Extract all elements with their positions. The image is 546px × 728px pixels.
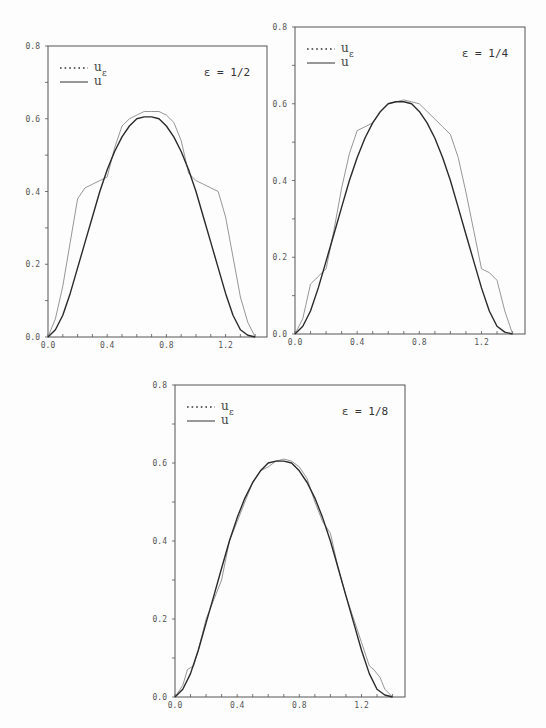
series-u xyxy=(175,461,393,697)
legend: uεu xyxy=(60,60,107,88)
x-tick-label: 0.0 xyxy=(41,341,56,350)
y-tick-label: 0.0 xyxy=(26,333,41,342)
y-tick-label: 0.2 xyxy=(153,615,168,624)
y-tick-label: 0.2 xyxy=(26,260,41,269)
y-tick-label: 0.8 xyxy=(153,381,168,390)
y-tick-label: 0.6 xyxy=(153,459,168,468)
y-tick-label: 0.4 xyxy=(153,537,168,546)
legend-subscript-epsilon: ε xyxy=(349,49,354,59)
legend-subscript-epsilon: ε xyxy=(229,407,234,417)
y-tick-label: 0.4 xyxy=(273,177,288,186)
x-tick-label: 1.2 xyxy=(474,338,489,347)
x-tick-label: 1.2 xyxy=(218,341,233,350)
legend-label-u: u xyxy=(221,413,229,427)
legend-label-u-epsilon: u xyxy=(341,41,349,55)
figure-canvas: 0.00.40.81.20.00.20.40.60.8uεuε = 1/20.0… xyxy=(0,0,546,728)
series-u-epsilon xyxy=(48,112,255,338)
chart-panel-3: 0.00.40.81.20.00.20.40.60.8uεuε = 1/8 xyxy=(153,381,405,710)
x-tick-label: 0.4 xyxy=(230,701,245,710)
chart-panel-2: 0.00.40.81.20.00.20.40.60.8uεuε = 1/4 xyxy=(273,23,525,347)
legend-label-u-epsilon: u xyxy=(221,399,229,413)
plot-frame xyxy=(48,46,267,337)
series-u-epsilon xyxy=(175,459,393,697)
x-tick-label: 0.0 xyxy=(168,701,183,710)
y-tick-label: 0.2 xyxy=(273,253,288,262)
x-tick-label: 0.8 xyxy=(292,701,307,710)
legend-label-u: u xyxy=(94,74,102,88)
x-tick-label: 0.8 xyxy=(412,338,427,347)
legend-subscript-epsilon: ε xyxy=(102,68,107,78)
y-tick-label: 0.6 xyxy=(273,100,288,109)
y-tick-label: 0.0 xyxy=(273,330,288,339)
chart-panel-1: 0.00.40.81.20.00.20.40.60.8uεuε = 1/2 xyxy=(26,42,267,350)
y-tick-label: 0.8 xyxy=(273,23,288,32)
y-tick-label: 0.0 xyxy=(153,693,168,702)
x-tick-label: 1.2 xyxy=(354,701,369,710)
epsilon-annotation: ε = 1/4 xyxy=(462,47,509,60)
series-u-epsilon xyxy=(295,100,513,334)
series-u xyxy=(48,117,255,337)
legend: uεu xyxy=(187,399,234,427)
epsilon-annotation: ε = 1/8 xyxy=(342,405,388,418)
y-tick-label: 0.6 xyxy=(26,115,41,124)
x-tick-label: 0.4 xyxy=(100,341,115,350)
x-tick-label: 0.4 xyxy=(350,338,365,347)
legend: uεu xyxy=(307,41,354,69)
plot-frame xyxy=(175,385,405,697)
series-u xyxy=(295,102,513,334)
x-tick-label: 0.0 xyxy=(288,338,303,347)
x-tick-label: 0.8 xyxy=(159,341,174,350)
legend-label-u: u xyxy=(341,55,349,69)
legend-label-u-epsilon: u xyxy=(94,60,102,74)
y-tick-label: 0.8 xyxy=(26,42,41,51)
epsilon-annotation: ε = 1/2 xyxy=(204,66,250,79)
y-tick-label: 0.4 xyxy=(26,188,41,197)
plot-frame xyxy=(295,27,525,334)
